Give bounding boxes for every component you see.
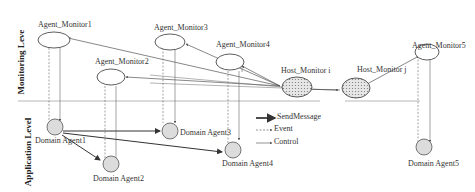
agent-monitor-4-label: Agent_Monitor4 [216, 40, 270, 49]
monitoring-level-label: Monitoring Leve [16, 30, 26, 95]
domain-agent-2[interactable] [103, 156, 119, 172]
domain-agent-3[interactable] [162, 123, 178, 139]
legend: SendMessage Event Control [256, 112, 321, 146]
agent-monitor-3-label: Agent_Monitor3 [154, 23, 208, 32]
agent-monitor-5-label: Agent_Monitor5 [412, 41, 466, 50]
agent-monitor-2-label: Agent_Monitor2 [95, 57, 149, 66]
domain-agent-2-label: Domain Agent2 [93, 174, 144, 183]
host-monitor-i[interactable] [282, 77, 312, 97]
host-monitor-i-label: Host_Monitor i [281, 66, 331, 75]
domain-agent-3-label: Domain Agent3 [180, 128, 231, 137]
agent-monitor-1[interactable] [38, 32, 70, 48]
agent-monitor-4[interactable] [216, 54, 244, 70]
legend-event-label: Event [274, 124, 293, 133]
domain-agent-5-label: Domain Agent5 [408, 159, 459, 168]
legend-send-label: SendMessage [277, 112, 321, 121]
host-monitor-j[interactable] [342, 78, 370, 98]
domain-agent-4[interactable] [225, 142, 241, 158]
domain-agent-1[interactable] [47, 119, 63, 135]
domain-agent-1-label: Domain Agent1 [35, 136, 86, 145]
agent-monitor-3[interactable] [155, 34, 185, 50]
agent-monitor-1-label: Agent_Monitor1 [38, 20, 92, 29]
agent-monitoring-diagram: Monitoring Leve Application Level [0, 0, 475, 192]
host-monitor-j-label: Host_Monitor j [357, 65, 407, 74]
domain-agent-5[interactable] [416, 139, 432, 155]
application-level-label: Application Level [23, 117, 33, 186]
legend-control-label: Control [274, 137, 299, 146]
agent-monitor-2[interactable] [97, 69, 125, 85]
domain-agent-4-label: Domain Agent4 [222, 159, 273, 168]
